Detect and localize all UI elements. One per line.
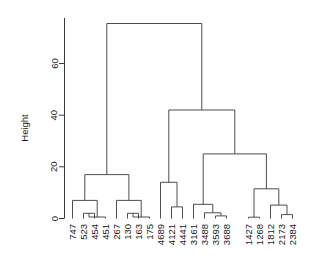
y-tick-label-0: 0 xyxy=(49,216,60,221)
dendrogram-canvas: 0 20 40 60 Height xyxy=(0,0,335,262)
link-1427-1268 xyxy=(249,217,260,218)
dendrogram-links xyxy=(73,24,293,219)
leaf-label-175: 175 xyxy=(144,224,155,240)
leaf-label-3593: 3593 xyxy=(210,224,221,245)
leaf-label-2173: 2173 xyxy=(276,224,287,245)
link-4121-4441 xyxy=(172,207,183,219)
link-747-m2 xyxy=(73,200,98,218)
link-3593-3688 xyxy=(216,216,227,219)
leaf-label-267: 267 xyxy=(111,224,122,240)
leaf-label-523: 523 xyxy=(78,224,89,240)
link-left-cluster xyxy=(85,175,129,201)
y-axis-title: Height xyxy=(19,114,30,142)
leaf-label-group: 747 523 454 451 267 130 163 175 4689 412… xyxy=(67,224,298,245)
leaf-label-4441: 4441 xyxy=(177,224,188,245)
link-root xyxy=(107,24,202,175)
leaf-label-1427: 1427 xyxy=(243,224,254,245)
y-tick-label-60: 60 xyxy=(49,58,60,69)
leaf-label-3488: 3488 xyxy=(199,224,210,245)
link-m15-m14 xyxy=(254,189,279,217)
leaf-label-4121: 4121 xyxy=(166,224,177,245)
dendrogram-plot: 0 20 40 60 Height xyxy=(0,0,335,262)
y-tick-label-20: 20 xyxy=(49,162,60,173)
link-right-lower-cluster xyxy=(203,154,266,204)
link-2173-2384 xyxy=(282,215,293,219)
link-1812-m13 xyxy=(271,205,288,218)
leaf-label-3161: 3161 xyxy=(188,224,199,245)
leaf-label-2384: 2384 xyxy=(287,224,298,245)
link-4689-m8 xyxy=(161,182,178,218)
link-267-m5 xyxy=(117,200,142,218)
leaf-label-130: 130 xyxy=(122,224,133,240)
leaf-label-454: 454 xyxy=(89,224,100,240)
leaf-label-3688: 3688 xyxy=(221,224,232,245)
leaf-label-163: 163 xyxy=(133,224,144,240)
link-right-cluster xyxy=(169,110,235,182)
leaf-label-1812: 1812 xyxy=(265,224,276,245)
leaf-label-747: 747 xyxy=(67,224,78,240)
leaf-label-1268: 1268 xyxy=(254,224,265,245)
y-tick-label-40: 40 xyxy=(49,110,60,121)
leaf-label-451: 451 xyxy=(100,224,111,240)
leaf-label-4689: 4689 xyxy=(155,224,166,245)
link-3161-m11 xyxy=(194,204,213,218)
